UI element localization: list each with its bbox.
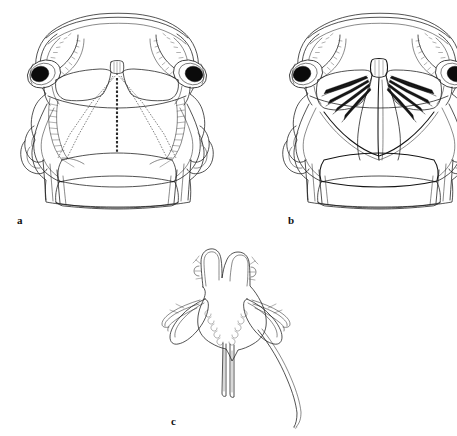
panel-c-group xyxy=(162,249,301,429)
panel-label-b: b xyxy=(288,215,294,226)
panel-c-drawing xyxy=(0,0,457,436)
panel-label-a: a xyxy=(17,215,23,226)
panel-label-c: c xyxy=(171,416,176,427)
illustration-plate: a b c xyxy=(0,0,457,436)
